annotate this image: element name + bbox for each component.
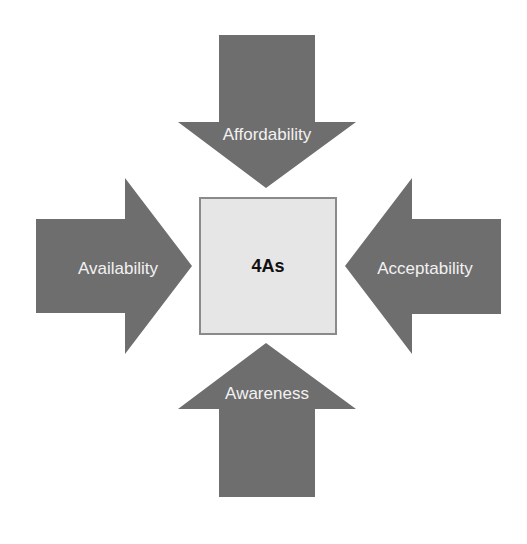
- label-affordability: Affordability: [223, 126, 312, 143]
- center-box: 4As: [199, 197, 337, 335]
- center-label: 4As: [251, 256, 284, 277]
- arrow-down-affordability: [178, 35, 356, 188]
- label-acceptability: Acceptability: [377, 260, 472, 277]
- label-awareness: Awareness: [225, 385, 309, 402]
- label-availability: Availability: [78, 260, 158, 277]
- arrow-up-awareness: [178, 343, 356, 497]
